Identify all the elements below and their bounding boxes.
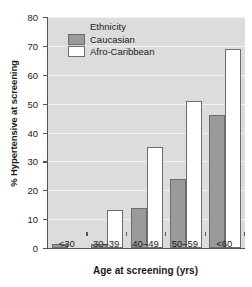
x-axis-tick [47, 232, 48, 236]
bar-caucasian-4 [209, 115, 225, 248]
legend-item-afro-caribbean: Afro-Caribbean [68, 46, 154, 57]
y-axis-tick [43, 17, 47, 18]
y-axis-tick [43, 190, 47, 191]
y-axis-tick [43, 133, 47, 134]
x-axis-title: Age at screening (yrs) [47, 265, 244, 276]
x-axis-tick-label: 30–39 [93, 238, 119, 249]
x-axis-tick [205, 232, 206, 236]
y-axis-tick-label: 50 [16, 98, 38, 109]
y-axis-tick-label: 40 [16, 127, 38, 138]
legend-label-afro-caribbean: Afro-Caribbean [90, 46, 154, 57]
bar-afro-caribbean-4 [225, 49, 241, 248]
y-axis-tick-label: 60 [16, 69, 38, 80]
legend-swatch-caucasian [68, 34, 85, 45]
x-axis-tick-label: 40–49 [132, 238, 158, 249]
y-axis-tick [43, 248, 47, 249]
y-axis-tick-label: 30 [16, 156, 38, 167]
legend: Ethnicity Caucasian Afro-Caribbean [68, 21, 154, 58]
y-axis-tick-label: 70 [16, 40, 38, 51]
y-axis-tick [43, 219, 47, 220]
bar-afro-caribbean-3 [186, 101, 202, 248]
legend-item-caucasian: Caucasian [68, 34, 154, 45]
y-axis-tick-label: 20 [16, 185, 38, 196]
legend-title: Ethnicity [68, 21, 154, 32]
bar-chart: % Hypertensive at screening 010203040506… [0, 0, 252, 287]
y-axis-tick [43, 75, 47, 76]
y-axis-tick [43, 46, 47, 47]
legend-swatch-afro-caribbean [68, 46, 85, 57]
bar-afro-caribbean-2 [147, 147, 163, 248]
x-axis-tick [165, 232, 166, 236]
y-axis-tick-label: 0 [16, 243, 38, 254]
y-axis-tick [43, 104, 47, 105]
legend-label-caucasian: Caucasian [90, 34, 135, 45]
x-axis-tick-label: <30 [59, 238, 75, 249]
x-axis-tick-label: <60 [216, 238, 232, 249]
x-axis-tick [86, 232, 87, 236]
x-axis-tick [244, 232, 245, 236]
x-axis-tick-label: 50–59 [172, 238, 198, 249]
y-axis-tick-label: 80 [16, 12, 38, 23]
y-axis-tick [43, 161, 47, 162]
y-axis-tick-label: 10 [16, 214, 38, 225]
x-axis-tick [126, 232, 127, 236]
